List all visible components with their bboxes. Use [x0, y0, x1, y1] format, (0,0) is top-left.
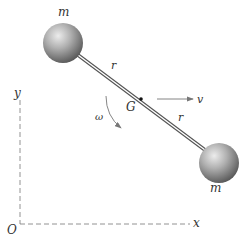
- omega-label: ω: [95, 111, 103, 122]
- angular-velocity-arrow: [106, 96, 121, 128]
- rod-top-label: r: [111, 59, 117, 72]
- dumbbell-diagram: m m r r G v ω y x O: [0, 0, 246, 245]
- mass-top-label: m: [58, 5, 69, 19]
- mass-bottom-label: m: [210, 181, 221, 195]
- origin-label: O: [7, 223, 17, 237]
- x-axis-label: x: [193, 216, 200, 230]
- velocity-label: v: [197, 93, 204, 106]
- rod-bottom-label: r: [178, 111, 184, 124]
- y-axis-label: y: [13, 86, 21, 100]
- rod: [78, 55, 205, 150]
- center-label: G: [126, 100, 136, 114]
- mass-top: [43, 23, 83, 63]
- center-of-mass-dot: [139, 97, 143, 101]
- mass-bottom: [199, 143, 239, 183]
